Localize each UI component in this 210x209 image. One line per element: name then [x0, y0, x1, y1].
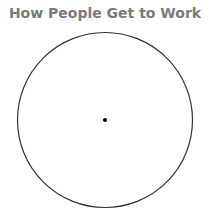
pie-chart	[0, 0, 210, 209]
pie-center-dot	[103, 118, 107, 122]
